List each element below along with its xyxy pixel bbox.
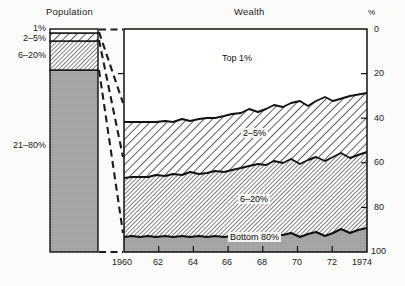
band-label-top-1: Top 1% [222, 53, 252, 63]
population-segment-6-20 [50, 41, 98, 70]
band-label-6-20: 6–20% [238, 194, 270, 204]
y-tick-label-60: 60 [374, 157, 384, 167]
band-label-bottom-80: Bottom 80% [228, 232, 281, 242]
population-segment-21-80 [50, 70, 98, 252]
population-label-6-20: 6–20% [0, 50, 46, 60]
figure-canvas: Population Wealth % 1% 2–5% 6–20% 21–80%… [0, 0, 405, 286]
x-tick-label-70: 70 [292, 257, 302, 267]
wealth-population-figure [0, 0, 405, 286]
population-label-21-80: 21–80% [0, 140, 46, 150]
connector-line-1pct [99, 32, 123, 103]
x-tick-label-62: 62 [153, 257, 163, 267]
band-label-2-5: 2–5% [241, 128, 268, 138]
y-tick-label-40: 40 [374, 113, 384, 123]
y-tick-label-100: 100 [371, 246, 386, 256]
connector-lines [99, 30, 123, 253]
population-label-1: 1% [0, 23, 46, 33]
connector-line-20pct [99, 70, 123, 233]
population-label-2-5: 2–5% [0, 33, 46, 43]
y-tick-label-80: 80 [374, 202, 384, 212]
x-tick-label-1960: 1960 [112, 257, 132, 267]
population-segment-2-5 [50, 33, 98, 41]
x-tick-label-64: 64 [188, 257, 198, 267]
x-tick-label-66: 66 [222, 257, 232, 267]
wealth-panel-title: Wealth [234, 6, 265, 17]
y-tick-label-0: 0 [374, 24, 379, 34]
x-tick-label-68: 68 [257, 257, 267, 267]
population-bar [50, 29, 98, 252]
x-tick-label-72: 72 [327, 257, 337, 267]
population-panel-title: Population [46, 6, 93, 17]
y-tick-label-20: 20 [374, 68, 384, 78]
percent-unit-label: % [368, 8, 375, 17]
population-segment-1 [50, 29, 98, 33]
x-tick-label-1974: 1974 [352, 257, 372, 267]
